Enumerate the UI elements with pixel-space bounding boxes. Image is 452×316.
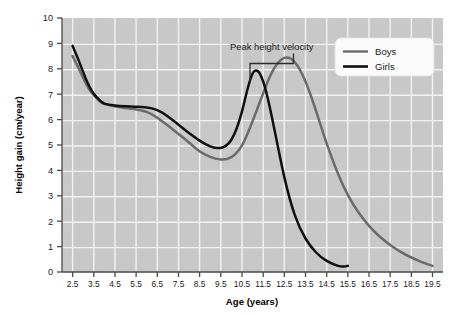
y-tick-label: 9 bbox=[48, 39, 53, 49]
growth-velocity-chart: Peak height velocity Boys Girls bbox=[0, 0, 452, 316]
x-tick-label: 17.5 bbox=[382, 279, 399, 289]
x-tick-label: 11.5 bbox=[255, 279, 271, 289]
x-tick-label: 12.5 bbox=[276, 279, 293, 289]
y-tick-label: 5 bbox=[48, 140, 53, 150]
y-tick-label: 7 bbox=[48, 90, 53, 100]
chart-canvas: Peak height velocity Boys Girls bbox=[0, 0, 452, 316]
x-tick-label: 18.5 bbox=[403, 279, 420, 289]
x-tick-label: 10.5 bbox=[234, 279, 251, 289]
annotation-label: Peak height velocity bbox=[230, 41, 314, 52]
y-tick-label: 10 bbox=[43, 13, 53, 23]
x-tick-label: 3.5 bbox=[88, 279, 100, 289]
y-tick-label: 0 bbox=[48, 267, 53, 277]
y-tick-label: 1 bbox=[48, 242, 53, 252]
x-tick-label: 16.5 bbox=[361, 279, 378, 289]
x-tick-label: 4.5 bbox=[109, 279, 121, 289]
x-tick-label: 14.5 bbox=[319, 279, 336, 289]
x-tick-label: 9.5 bbox=[215, 279, 227, 289]
y-tick-label: 3 bbox=[48, 191, 53, 201]
y-tick-label: 2 bbox=[48, 217, 53, 227]
y-tick-label: 6 bbox=[48, 115, 53, 125]
legend-label-girls: Girls bbox=[375, 61, 395, 72]
x-tick-label: 5.5 bbox=[130, 279, 142, 289]
x-tick-label: 8.5 bbox=[194, 279, 206, 289]
legend: Boys Girls bbox=[335, 38, 434, 76]
y-tick-label: 4 bbox=[48, 166, 53, 176]
x-tick-label: 15.5 bbox=[340, 279, 357, 289]
x-tick-label: 6.5 bbox=[151, 279, 163, 289]
legend-label-boys: Boys bbox=[375, 46, 397, 57]
x-tick-label: 13.5 bbox=[297, 279, 314, 289]
y-tick-label: 8 bbox=[48, 64, 53, 74]
x-tick-label: 7.5 bbox=[173, 279, 185, 289]
x-tick-label: 19.5 bbox=[424, 279, 441, 289]
x-axis-title: Age (years) bbox=[226, 296, 278, 307]
x-tick-label: 2.5 bbox=[67, 279, 79, 289]
y-axis-title: Height gain (cm/year) bbox=[13, 96, 24, 194]
